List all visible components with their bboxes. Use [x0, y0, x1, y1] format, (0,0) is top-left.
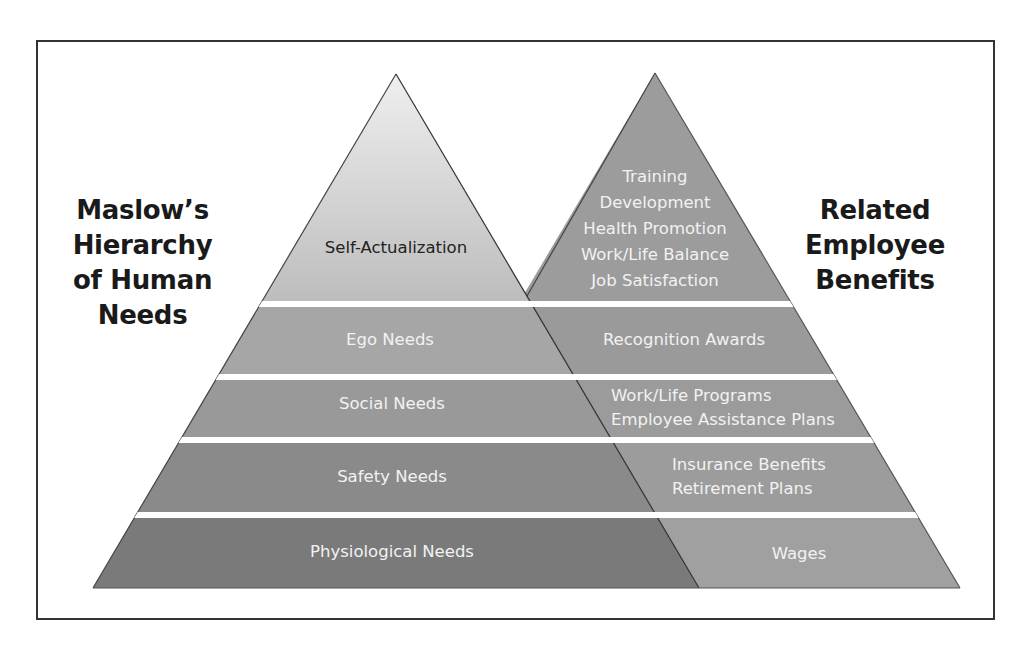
benefit-item: Wages [772, 542, 827, 566]
benefits-title-line: Employee [790, 228, 960, 263]
maslow-title-line: Needs [55, 298, 230, 333]
maslow-level-social: Social Needs [339, 392, 445, 416]
benefit-item: Retirement Plans [672, 477, 826, 501]
benefits-level-2: Recognition Awards [603, 328, 765, 352]
benefit-item: Recognition Awards [603, 328, 765, 352]
benefit-item: Work/Life Balance [581, 242, 729, 268]
benefit-item: Work/Life Programs [611, 384, 835, 408]
maslow-title-line: Maslow’s [55, 193, 230, 228]
maslow-level-physiological: Physiological Needs [310, 540, 474, 564]
benefit-item: Employee Assistance Plans [611, 408, 835, 432]
benefits-level-3: Work/Life Programs Employee Assistance P… [611, 384, 835, 432]
maslow-level-self-actualization: Self-Actualization [325, 236, 467, 260]
benefits-level-1: Training Development Health Promotion Wo… [581, 164, 729, 294]
benefit-item: Health Promotion [581, 216, 729, 242]
maslow-title: Maslow’s Hierarchy of Human Needs [55, 193, 230, 333]
maslow-title-line: of Human [55, 263, 230, 298]
benefit-item: Insurance Benefits [672, 453, 826, 477]
maslow-title-line: Hierarchy [55, 228, 230, 263]
benefits-title-line: Related [790, 193, 960, 228]
benefit-item: Training [581, 164, 729, 190]
benefits-level-5: Wages [772, 542, 827, 566]
benefit-item: Job Satisfaction [581, 268, 729, 294]
maslow-level-safety: Safety Needs [337, 465, 447, 489]
benefits-title-line: Benefits [790, 263, 960, 298]
benefits-title: Related Employee Benefits [790, 193, 960, 298]
benefits-level-4: Insurance Benefits Retirement Plans [672, 453, 826, 501]
benefit-item: Development [581, 190, 729, 216]
maslow-level-ego: Ego Needs [346, 328, 434, 352]
